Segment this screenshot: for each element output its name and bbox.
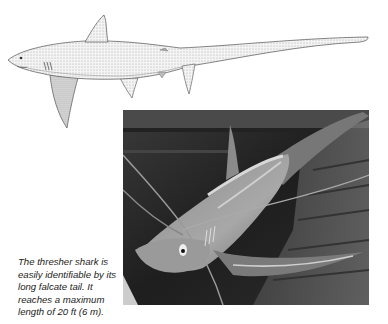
figure-caption: The thresher shark is easily identifiabl… [18,256,128,319]
thresher-shark-photo [123,110,369,305]
